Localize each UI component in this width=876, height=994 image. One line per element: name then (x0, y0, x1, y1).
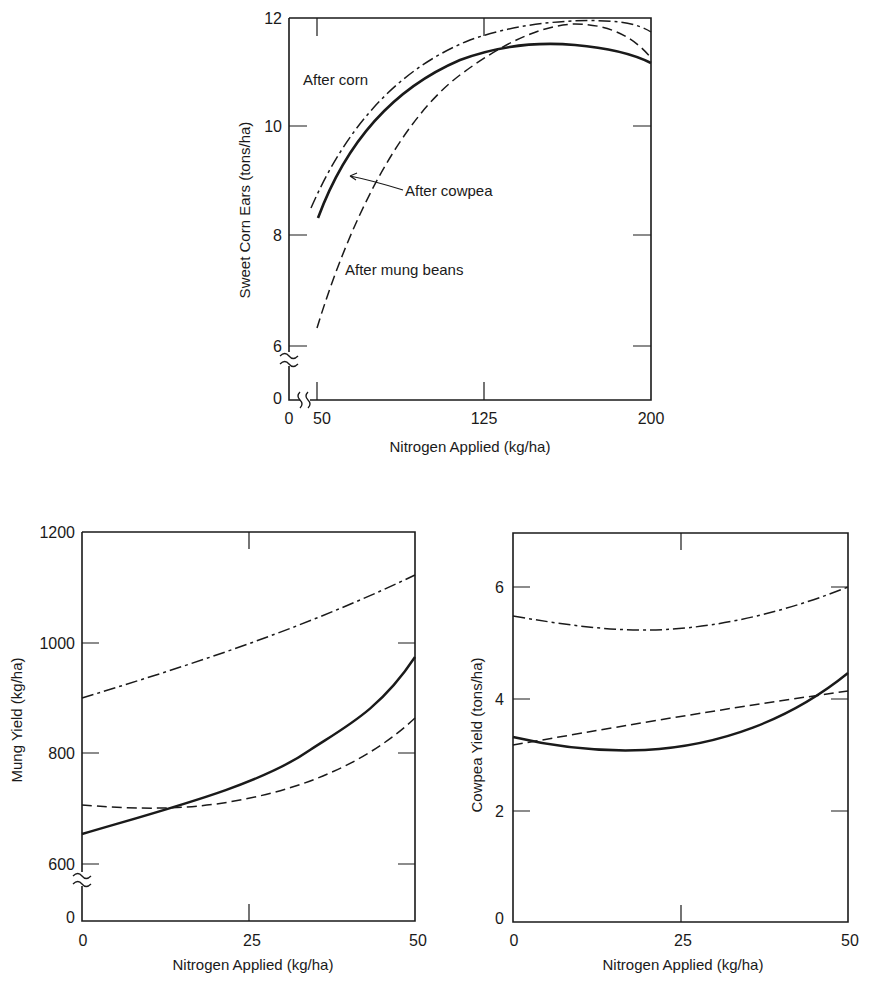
top-ytick-12: 12 (264, 10, 282, 27)
top-x-axis-break-icon (298, 392, 310, 408)
br-ytick-2: 2 (495, 803, 504, 820)
bl-series-after-mung (82, 718, 415, 808)
top-ytick-0: 0 (273, 390, 282, 407)
bl-series-after-corn (82, 575, 415, 698)
annotation-after-mung: After mung beans (345, 261, 463, 278)
top-xtick-200: 200 (638, 410, 665, 427)
bl-xtick-50: 50 (409, 932, 427, 949)
bl-ytick-1000: 1000 (39, 635, 75, 652)
top-xtick-0: 0 (285, 410, 294, 427)
bl-y-axis-label: Mung Yield (kg/ha) (8, 657, 25, 782)
br-ytick-4: 4 (495, 691, 504, 708)
br-ytick-0: 0 (495, 910, 504, 927)
br-xtick-50: 50 (841, 932, 859, 949)
br-xtick-25: 25 (674, 932, 692, 949)
top-x-axis-label: Nitrogen Applied (kg/ha) (390, 438, 551, 455)
bl-ytick-600: 600 (48, 856, 75, 873)
br-ticks (513, 533, 848, 922)
top-xtick-125: 125 (471, 410, 498, 427)
bl-ytick-1200: 1200 (39, 524, 75, 541)
bl-ytick-800: 800 (48, 745, 75, 762)
bottom-left-chart: 1200 1000 800 600 0 0 25 50 Nitrogen App… (8, 524, 427, 973)
top-ytick-8: 8 (273, 227, 282, 244)
bl-ticks (82, 532, 415, 921)
bl-y-axis-break-icon (73, 874, 91, 887)
bl-xtick-25: 25 (243, 932, 261, 949)
bl-xtick-0: 0 (79, 932, 88, 949)
top-ytick-6: 6 (273, 338, 282, 355)
br-y-axis-label: Cowpea Yield (tons/ha) (468, 657, 485, 812)
bl-x-axis-label: Nitrogen Applied (kg/ha) (173, 956, 334, 973)
br-series-after-mung (513, 691, 848, 745)
bottom-right-chart: 6 4 2 0 0 25 50 Nitrogen Applied (kg/ha)… (468, 533, 859, 973)
top-y-axis-label: Sweet Corn Ears (tons/ha) (236, 122, 253, 299)
bl-ytick-0: 0 (66, 909, 75, 926)
br-series-after-cowpea (513, 673, 848, 750)
bl-frame (82, 532, 415, 921)
top-xtick-50: 50 (313, 410, 331, 427)
annotation-after-corn: After corn (303, 71, 368, 88)
top-y-axis-break-icon (280, 354, 298, 367)
figure-canvas: 12 10 8 6 0 0 50 125 200 Nitrogen Applie… (0, 0, 876, 994)
top-ytick-10: 10 (264, 118, 282, 135)
br-ytick-6: 6 (495, 579, 504, 596)
br-x-axis-label: Nitrogen Applied (kg/ha) (603, 956, 764, 973)
annotation-after-cowpea: After cowpea (405, 182, 493, 199)
br-frame (513, 533, 848, 922)
top-chart: 12 10 8 6 0 0 50 125 200 Nitrogen Applie… (236, 10, 664, 455)
br-series-after-corn (513, 587, 848, 630)
br-xtick-0: 0 (510, 932, 519, 949)
top-series-after-mung (317, 24, 651, 328)
